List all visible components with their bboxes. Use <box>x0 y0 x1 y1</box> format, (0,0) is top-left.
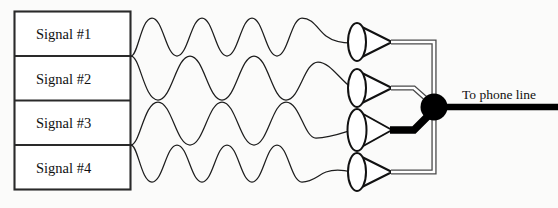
cone-coupler-group <box>348 23 393 191</box>
waveform-signal-2 <box>131 56 352 100</box>
waveform-signal-1 <box>131 18 352 56</box>
signal-box-label-4: Signal #4 <box>36 160 92 176</box>
wire-1 <box>391 42 434 104</box>
waveform-group <box>131 18 352 182</box>
waveform-signal-4 <box>131 145 352 182</box>
cone-2 <box>348 69 392 107</box>
signal-multiplexer-diagram: Signal #1 Signal #2 Signal #3 Signal #4 <box>0 0 558 208</box>
cone-3 <box>348 109 393 151</box>
signal-box-label-3: Signal #3 <box>36 115 91 131</box>
signal-box-stack: Signal #1 Signal #2 Signal #3 Signal #4 <box>15 12 131 190</box>
combiner-node <box>421 94 448 121</box>
diagram-canvas: Signal #1 Signal #2 Signal #3 Signal #4 <box>0 0 558 208</box>
cone-1 <box>348 23 392 61</box>
waveform-signal-3 <box>131 102 352 145</box>
signal-box-label-2: Signal #2 <box>36 71 91 87</box>
output-label: To phone line <box>462 87 536 102</box>
cone-4 <box>348 153 392 191</box>
signal-box-label-1: Signal #1 <box>36 26 91 42</box>
